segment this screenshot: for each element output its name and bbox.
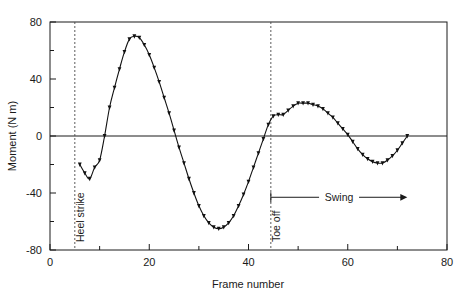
toe-off-label: Toe off	[270, 211, 282, 242]
y-axis-title: Moment (N m)	[6, 101, 18, 171]
y-axis-tick-label: -40	[26, 187, 42, 199]
chart-figure: -80-4004080 020406080 Heel strikeToe off…	[0, 0, 470, 300]
swing-phase-label: Swing	[325, 191, 354, 203]
x-axis-title: Frame number	[212, 278, 284, 290]
x-axis-tick-label: 0	[47, 256, 53, 268]
y-axis-tick-label: 0	[36, 130, 42, 142]
x-axis-tick-label: 20	[143, 256, 155, 268]
moment-vs-frame-number-chart: -80-4004080 020406080 Heel strikeToe off…	[0, 0, 470, 300]
y-axis-tick-label: -80	[26, 244, 42, 256]
x-axis-tick-label: 40	[242, 256, 254, 268]
x-axis-tick-label: 60	[342, 256, 354, 268]
heel-strike-label: Heel strike	[74, 192, 86, 242]
y-axis-tick-label: 80	[30, 16, 42, 28]
x-axis-tick-label: 80	[441, 256, 453, 268]
y-axis-tick-label: 40	[30, 73, 42, 85]
chart-background	[0, 0, 470, 300]
